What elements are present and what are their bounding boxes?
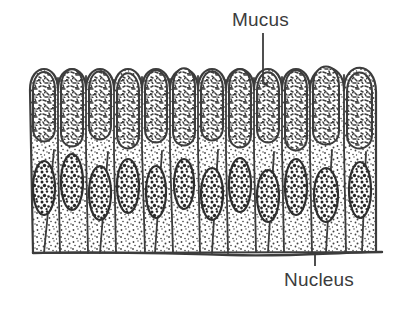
nucleus (61, 154, 83, 210)
nucleus-labeled (257, 170, 279, 222)
nucleus (117, 159, 139, 213)
mucus-cap (89, 71, 111, 139)
nucleus (146, 166, 166, 218)
mucus-cap (313, 67, 339, 145)
mucus-cap (33, 72, 55, 142)
mucus-cap (145, 70, 167, 142)
mucus-cap (61, 69, 83, 146)
mucus-cap (229, 69, 251, 147)
nucleus (201, 168, 223, 220)
mucus-cap (117, 73, 139, 148)
nucleus (229, 158, 251, 212)
nucleus-label: Nucleus (284, 270, 354, 289)
nucleus (174, 159, 194, 209)
nucleus (285, 159, 307, 215)
nucleus (349, 162, 371, 218)
nucleus (89, 166, 111, 220)
mucus-cap (347, 73, 372, 149)
nucleus (314, 168, 338, 222)
mucus-cap (201, 71, 223, 140)
mucus-label: Mucus (232, 10, 289, 29)
nucleus (33, 161, 55, 215)
mucus-cap-labeled (257, 72, 279, 142)
mucus-cap (285, 70, 307, 150)
mucus-cap (173, 68, 195, 145)
